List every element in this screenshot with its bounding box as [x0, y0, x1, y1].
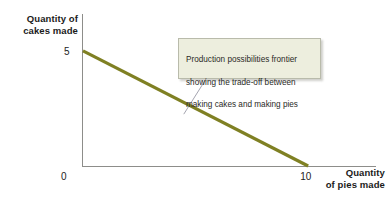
annotation-callout-box: Production possibilities frontier showin…: [178, 38, 321, 79]
annotation-text-line-1: Production possibilities frontier: [186, 54, 314, 65]
annotation-text-line-3: making cakes and making pies: [186, 99, 314, 110]
ppf-chart-figure: Quantity of cakes made Quantity of pies …: [0, 0, 389, 208]
annotation-text-line-2: showing the trade-off between: [186, 77, 314, 88]
annotation-text: Production possibilities frontier showin…: [186, 43, 314, 121]
